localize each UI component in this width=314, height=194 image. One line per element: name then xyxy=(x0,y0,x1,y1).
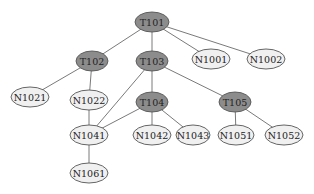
node-n1041: N1041 xyxy=(70,125,108,145)
node-label: T104 xyxy=(140,97,164,108)
node-t101: T101 xyxy=(135,12,169,32)
node-t102: T102 xyxy=(76,51,108,71)
node-n1051: N1051 xyxy=(218,125,254,145)
node-label: N1041 xyxy=(73,130,106,141)
node-label: T102 xyxy=(80,56,104,67)
node-t105: T105 xyxy=(219,92,251,112)
node-n1002: N1002 xyxy=(247,49,285,69)
node-n1043: N1043 xyxy=(176,125,210,145)
node-label: N1043 xyxy=(177,130,210,141)
node-n1042: N1042 xyxy=(133,125,171,145)
node-n1061: N1061 xyxy=(70,163,108,183)
node-t104: T104 xyxy=(136,92,168,112)
tree-diagram: T101T102T103N1001N1002N1021N1022T104T105… xyxy=(0,0,314,194)
node-label: T103 xyxy=(140,56,164,67)
node-label: N1001 xyxy=(195,54,228,65)
node-label: N1021 xyxy=(14,92,47,103)
node-label: N1042 xyxy=(136,130,169,141)
node-label: N1022 xyxy=(73,95,106,106)
node-n1052: N1052 xyxy=(265,125,303,145)
node-t103: T103 xyxy=(136,51,168,71)
node-n1001: N1001 xyxy=(192,49,230,69)
node-label: N1052 xyxy=(268,130,301,141)
node-label: N1051 xyxy=(220,130,253,141)
node-label: N1002 xyxy=(250,54,283,65)
node-label: N1061 xyxy=(73,168,106,179)
node-label: T105 xyxy=(223,97,247,108)
node-label: T101 xyxy=(140,17,164,28)
nodes-layer: T101T102T103N1001N1002N1021N1022T104T105… xyxy=(11,12,303,183)
node-n1022: N1022 xyxy=(70,90,108,110)
node-n1021: N1021 xyxy=(11,87,49,107)
